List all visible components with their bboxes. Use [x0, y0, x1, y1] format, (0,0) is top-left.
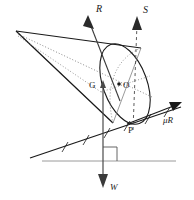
vector-muR — [127, 102, 182, 124]
cone-incline-diagram: R S μR W G O P — [0, 0, 194, 200]
label-S: S — [143, 4, 148, 15]
incline-line — [30, 107, 181, 158]
vector-R-arrowhead — [83, 15, 94, 29]
label-R: R — [95, 3, 102, 14]
vector-W-arrowhead — [98, 174, 108, 188]
point-O-dot — [117, 82, 121, 86]
right-angle-marker — [103, 147, 117, 161]
label-O: O — [123, 80, 130, 90]
label-muR: μR — [162, 115, 174, 125]
label-W: W — [110, 182, 119, 192]
vector-S-shaft — [133, 24, 137, 130]
cone-axis-dotted — [18, 34, 152, 97]
label-G: G — [89, 80, 96, 90]
figure-canvas: R S μR W G O P — [0, 0, 194, 200]
cone-slant-top — [16, 31, 141, 48]
vector-S — [132, 16, 142, 130]
label-P: P — [128, 125, 133, 135]
vector-S-arrowhead — [132, 16, 142, 30]
